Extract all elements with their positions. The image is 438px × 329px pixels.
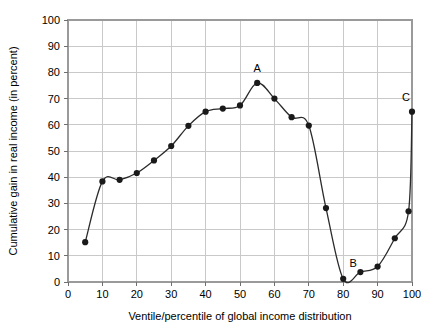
data-point-marker [134, 170, 140, 176]
y-tick-label: 10 [48, 250, 60, 262]
y-tick-label: 80 [48, 66, 60, 78]
y-tick-label: 50 [48, 145, 60, 157]
data-point-marker [254, 80, 260, 86]
data-point-marker [117, 177, 123, 183]
data-point-marker [405, 208, 411, 214]
x-tick-label: 20 [131, 288, 143, 300]
data-point-marker [357, 269, 363, 275]
data-point-marker [168, 143, 174, 149]
y-tick-label: 30 [48, 197, 60, 209]
y-tick-label: 20 [48, 224, 60, 236]
annotation-label-a: A [254, 62, 262, 74]
annotation-label-b: B [350, 257, 357, 269]
data-point-marker [409, 109, 415, 115]
data-point-marker [220, 105, 226, 111]
y-tick-label: 0 [54, 276, 60, 288]
y-tick-label: 70 [48, 93, 60, 105]
data-point-marker [237, 102, 243, 108]
x-tick-label: 70 [303, 288, 315, 300]
y-tick-label: 60 [48, 119, 60, 131]
x-tick-label: 100 [403, 288, 421, 300]
x-axis-title: Ventile/percentile of global income dist… [128, 310, 351, 322]
x-tick-label: 50 [234, 288, 246, 300]
data-point-marker [323, 205, 329, 211]
annotation-label-c: C [402, 91, 410, 103]
x-tick-label: 90 [371, 288, 383, 300]
data-point-marker [392, 235, 398, 241]
y-axis-title: Cumulative gain in real income (in perce… [7, 46, 19, 255]
data-point-marker [203, 109, 209, 115]
data-point-marker [185, 123, 191, 129]
data-point-marker [82, 239, 88, 245]
data-point-marker [289, 114, 295, 120]
x-tick-label: 80 [337, 288, 349, 300]
data-point-marker [271, 96, 277, 102]
x-tick-label: 30 [165, 288, 177, 300]
data-point-marker [306, 122, 312, 128]
x-tick-label: 0 [65, 288, 71, 300]
y-tick-label: 90 [48, 40, 60, 52]
y-tick-label: 100 [42, 14, 60, 26]
y-tick-label: 40 [48, 171, 60, 183]
x-tick-label: 60 [268, 288, 280, 300]
data-point-marker [340, 276, 346, 282]
data-point-marker [99, 178, 105, 184]
x-tick-label: 40 [199, 288, 211, 300]
elephant-curve-chart: 0102030405060708090100 01020304050607080… [0, 0, 438, 329]
data-point-marker [151, 157, 157, 163]
data-point-marker [375, 263, 381, 269]
x-tick-label: 10 [96, 288, 108, 300]
chart-background [0, 0, 438, 329]
